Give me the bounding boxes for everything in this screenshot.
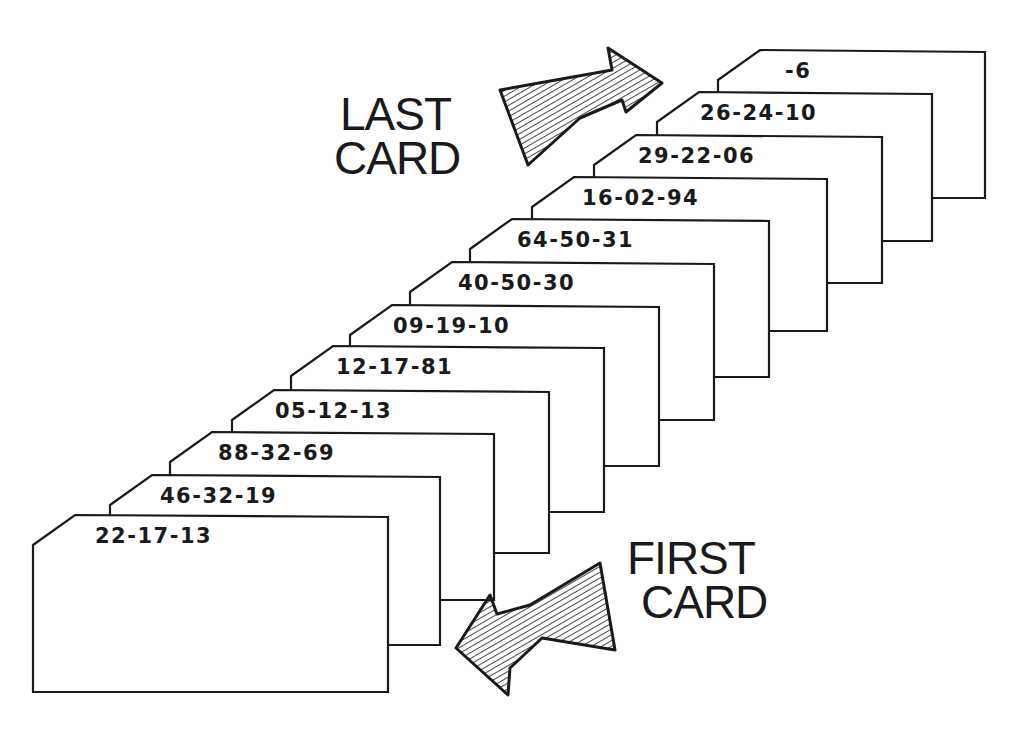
index-card: 22-17-13: [33, 515, 388, 692]
first-card-label-line1: FIRST: [627, 536, 767, 580]
card-number: 64-50-31: [517, 228, 634, 252]
card-number: 12-17-81: [336, 355, 453, 379]
card-number: 29-22-06: [638, 144, 755, 168]
card-number: 88-32-69: [218, 441, 335, 465]
card-number: 40-50-30: [458, 271, 575, 295]
last-card-label-line2: CARD: [334, 136, 460, 180]
card-number: -6: [785, 59, 811, 83]
card-number: 09-19-10: [393, 314, 510, 338]
last-card-label-line1: LAST: [334, 92, 460, 136]
first-card-label: FIRST CARD: [627, 536, 767, 624]
card-number: 46-32-19: [160, 484, 277, 508]
card-stack-canvas: -626-24-1029-22-0616-02-9464-50-3140-50-…: [0, 0, 1016, 729]
card-number: 22-17-13: [95, 524, 212, 548]
first-card-label-line2: CARD: [627, 580, 767, 624]
card-number: 05-12-13: [275, 399, 392, 423]
card-number: 26-24-10: [700, 101, 817, 125]
card-number: 16-02-94: [582, 186, 699, 210]
last-card-label: LAST CARD: [334, 92, 460, 180]
card-stack-diagram: -626-24-1029-22-0616-02-9464-50-3140-50-…: [0, 0, 1016, 729]
